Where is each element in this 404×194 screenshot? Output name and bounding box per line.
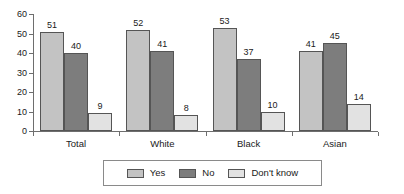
bar-chart: 0102030405060 5140952418533710414514 Tot… [0, 0, 404, 194]
y-axis-label-wrap: 40 [0, 49, 27, 58]
y-axis-label: 50 [1, 30, 27, 39]
legend-label: No [202, 168, 214, 178]
bar [213, 28, 237, 131]
bar [88, 113, 112, 131]
y-axis-label-wrap: 0 [0, 127, 27, 136]
bar [174, 115, 198, 131]
x-axis-tick [378, 132, 379, 136]
bar-value-label: 9 [82, 102, 118, 111]
y-axis-label: 40 [1, 49, 27, 58]
bar [237, 59, 261, 131]
y-axis-label-wrap: 20 [0, 88, 27, 97]
bar-value-label: 8 [168, 104, 204, 113]
y-axis-label: 60 [1, 10, 27, 19]
bar-value-label: 41 [144, 40, 180, 49]
legend-swatch-icon [127, 169, 144, 178]
x-axis-category-label: Black [206, 138, 292, 149]
bar [261, 112, 285, 132]
bar-value-label: 53 [207, 17, 243, 26]
bar [299, 51, 323, 131]
bar-group: 51409 [33, 14, 119, 131]
bar [347, 104, 371, 131]
legend-item[interactable]: Yes [127, 168, 166, 178]
bar-value-label: 51 [34, 21, 70, 30]
chart-legend: YesNoDon't know [103, 160, 322, 186]
bar-group: 414514 [292, 14, 378, 131]
plot-area: 5140952418533710414514 [33, 14, 378, 131]
x-axis-category-label: White [119, 138, 205, 149]
bar-value-label: 52 [120, 19, 156, 28]
x-axis-tick [206, 132, 207, 136]
legend-item[interactable]: No [179, 168, 214, 178]
y-axis-label: 10 [1, 108, 27, 117]
x-axis-tick [119, 132, 120, 136]
legend-swatch-icon [228, 169, 245, 178]
legend-label: Yes [150, 168, 166, 178]
legend-swatch-icon [179, 169, 196, 178]
y-axis-label: 30 [1, 69, 27, 78]
bar-value-label: 14 [341, 93, 377, 102]
bar [64, 53, 88, 131]
bar-group: 52418 [119, 14, 205, 131]
y-axis-label-wrap: 10 [0, 108, 27, 117]
bar-value-label: 40 [58, 42, 94, 51]
x-axis-tick [292, 132, 293, 136]
legend-label: Don't know [251, 168, 298, 178]
y-axis-label: 20 [1, 88, 27, 97]
x-axis-tick [33, 132, 34, 136]
bar [323, 43, 347, 131]
y-axis-label: 0 [1, 127, 27, 136]
y-axis-label-wrap: 50 [0, 30, 27, 39]
bar-value-label: 10 [255, 101, 291, 110]
bar-value-label: 37 [231, 48, 267, 57]
y-axis-label-wrap: 60 [0, 10, 27, 19]
legend-item[interactable]: Don't know [228, 168, 298, 178]
x-axis-category-label: Total [33, 138, 119, 149]
bar-value-label: 45 [317, 32, 353, 41]
x-axis-category-label: Asian [292, 138, 378, 149]
bar-group: 533710 [206, 14, 292, 131]
y-axis-label-wrap: 30 [0, 69, 27, 78]
bar [150, 51, 174, 131]
